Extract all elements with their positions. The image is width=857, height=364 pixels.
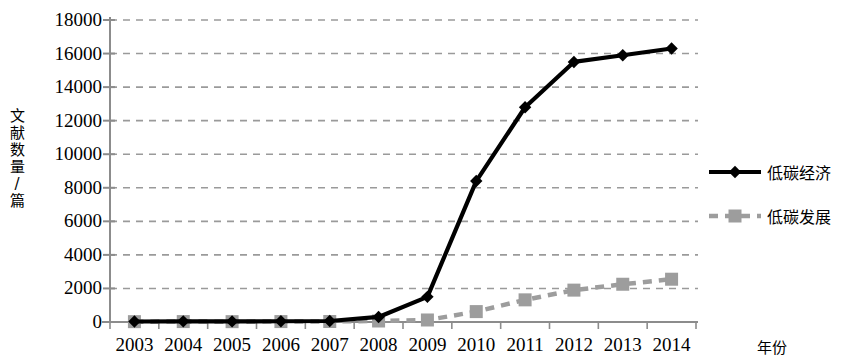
data-point-marker — [421, 313, 434, 326]
x-axis-tick-label: 2013 — [604, 334, 642, 356]
x-axis-tick-label: 2003 — [115, 334, 153, 356]
data-point-marker — [519, 293, 532, 306]
legend-swatch-graphic — [707, 208, 763, 224]
data-point-marker — [470, 305, 483, 318]
data-point-marker — [665, 273, 678, 286]
data-point-marker — [567, 284, 580, 297]
line-chart: 文献数量/篇 020004000600080001000012000140001… — [0, 0, 857, 364]
x-axis-tick-label: 2007 — [311, 334, 349, 356]
legend-swatch-graphic — [707, 164, 763, 180]
data-point-marker — [729, 166, 741, 178]
legend-item-low-carbon-development[interactable]: 低碳发展 — [707, 204, 831, 228]
x-axis-tick-label: 2014 — [653, 334, 691, 356]
legend-item-low-carbon-economy[interactable]: 低碳经济 — [707, 160, 831, 184]
x-axis-tick-label: 2005 — [213, 334, 251, 356]
data-point-marker — [421, 291, 433, 303]
series-line-2 — [134, 279, 671, 321]
legend-swatch-series1 — [707, 164, 763, 180]
data-point-marker — [616, 278, 629, 291]
legend-label-series1: 低碳经济 — [767, 160, 831, 184]
x-axis-tick-label: 2004 — [164, 334, 202, 356]
series-line-1 — [134, 49, 671, 322]
x-axis-tick-label: 2008 — [360, 334, 398, 356]
x-axis-tick-label: 2006 — [262, 334, 300, 356]
legend-swatch-series2 — [707, 208, 763, 224]
x-axis-tick-label: 2011 — [506, 334, 543, 356]
x-axis-tick-label: 2012 — [555, 334, 593, 356]
x-axis-tick-label: 2009 — [408, 334, 446, 356]
data-point-marker — [617, 49, 629, 61]
data-point-marker — [729, 210, 742, 223]
legend-label-series2: 低碳发展 — [767, 204, 831, 228]
x-axis-title: 年份 — [757, 336, 787, 357]
x-axis-tick-label: 2010 — [457, 334, 495, 356]
